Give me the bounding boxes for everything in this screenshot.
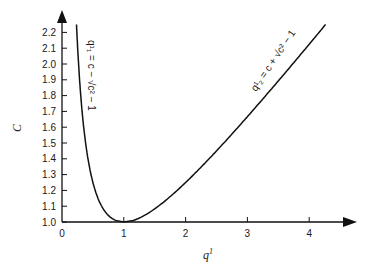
y-tick-label: 1.1 xyxy=(42,201,56,212)
y-tick-label: 1.4 xyxy=(42,153,56,164)
curve-q1 xyxy=(77,25,124,223)
chart: 1.01.11.21.31.41.51.61.71.81.92.02.12.2 … xyxy=(0,0,370,273)
annotation-right: q¹₂ = c + √c² − 1 xyxy=(249,27,298,93)
y-tick-label: 1.9 xyxy=(42,74,56,85)
x-ticks: 01234 xyxy=(59,217,312,239)
y-tick-label: 1.3 xyxy=(42,169,56,180)
y-axis-label: C xyxy=(10,123,24,132)
y-tick-label: 2.2 xyxy=(42,27,56,38)
x-tick-label: 2 xyxy=(183,228,189,239)
y-tick-label: 1.7 xyxy=(42,106,56,117)
plot-area: 1.01.11.21.31.41.51.61.71.81.92.02.12.2 … xyxy=(0,0,370,273)
x-axis-arrow-icon xyxy=(343,217,357,227)
y-tick-label: 1.5 xyxy=(42,138,56,149)
y-tick-label: 1.0 xyxy=(42,217,56,228)
y-tick-label: 2.0 xyxy=(42,59,56,70)
x-tick-label: 1 xyxy=(121,228,127,239)
y-tick-label: 1.2 xyxy=(42,185,56,196)
y-tick-label: 1.6 xyxy=(42,122,56,133)
curve-q2 xyxy=(124,25,326,223)
y-tick-label: 2.1 xyxy=(42,43,56,54)
y-ticks: 1.01.11.21.31.41.51.61.71.81.92.02.12.2 xyxy=(42,27,67,228)
y-tick-label: 1.8 xyxy=(42,90,56,101)
y-axis-arrow-icon xyxy=(57,10,67,23)
x-axis-label: q1 xyxy=(203,247,213,262)
annotation-left: q¹₁ = c − √c² − 1 xyxy=(86,40,97,111)
x-tick-label: 0 xyxy=(59,228,65,239)
x-tick-label: 4 xyxy=(306,228,312,239)
x-tick-label: 3 xyxy=(245,228,251,239)
